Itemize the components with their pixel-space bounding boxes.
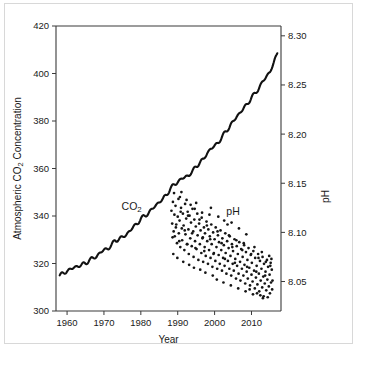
ph-data-point <box>229 284 232 287</box>
ph-data-point <box>179 246 182 249</box>
ph-data-point <box>179 196 182 199</box>
ph-data-point <box>256 283 259 286</box>
ph-data-point <box>246 259 249 262</box>
ph-data-point <box>184 203 187 206</box>
ph-data-point <box>208 235 211 238</box>
ph-data-point <box>264 270 267 273</box>
ph-data-point <box>239 261 242 264</box>
ph-data-point <box>246 265 249 268</box>
ph-data-point <box>222 244 225 247</box>
ph-data-point <box>171 236 174 239</box>
ph-data-point <box>247 247 250 250</box>
ph-data-point <box>268 255 271 258</box>
figure-frame: 300320340360380400420 8.058.108.158.208.… <box>4 3 353 344</box>
ph-data-point <box>209 257 212 260</box>
ph-data-point <box>238 241 241 244</box>
right-tick-label: 8.30 <box>288 30 307 41</box>
ph-data-point <box>194 240 197 243</box>
ph-data-point <box>211 265 214 268</box>
ph-data-point <box>224 232 227 235</box>
x-tick-label: 1980 <box>130 317 151 328</box>
plot-area <box>56 26 281 311</box>
ph-data-point <box>188 263 191 266</box>
ph-data-point <box>203 250 206 253</box>
ph-data-point <box>196 234 199 237</box>
ph-data-point <box>219 229 222 232</box>
ph-data-point <box>250 273 253 276</box>
ph-data-point <box>223 219 226 222</box>
left-tick-label: 420 <box>33 20 49 31</box>
figure-container: 300320340360380400420 8.058.108.158.208.… <box>0 0 389 377</box>
ph-data-point <box>226 240 229 243</box>
ph-data-point <box>253 287 256 290</box>
ph-data-point <box>252 293 255 296</box>
ph-data-point <box>260 251 263 254</box>
ph-data-point <box>235 245 238 248</box>
ph-data-point <box>263 262 266 265</box>
ph-data-point <box>231 243 234 246</box>
ph-data-point <box>230 274 233 277</box>
ph-data-point <box>185 199 188 202</box>
right-tick-label: 8.25 <box>288 79 307 90</box>
ph-data-point <box>226 223 229 226</box>
ph-data-point <box>236 264 239 267</box>
ph-data-point <box>172 253 175 256</box>
ph-data-point <box>193 266 196 269</box>
ph-data-point <box>177 232 180 235</box>
ph-data-point <box>210 206 213 209</box>
ph-data-point <box>176 215 179 218</box>
ph-data-point <box>210 243 213 246</box>
ph-data-point <box>220 242 223 245</box>
ph-data-point <box>234 261 237 264</box>
ph-data-point <box>170 209 173 212</box>
ph-data-point <box>183 249 186 252</box>
ph-data-point <box>259 260 262 263</box>
ph-data-point <box>232 250 235 253</box>
ph-data-point <box>208 213 211 216</box>
ph-data-point <box>228 267 231 270</box>
ph-data-point <box>241 256 244 259</box>
ph-data-point <box>207 228 210 231</box>
ph-data-point <box>213 238 216 241</box>
co2-line-series <box>60 53 278 275</box>
ph-data-point <box>241 249 244 252</box>
ph-data-point <box>187 214 190 217</box>
ph-data-point <box>237 272 240 275</box>
ph-data-point <box>176 242 179 245</box>
ph-data-point <box>214 226 217 229</box>
ph-data-point <box>270 268 273 271</box>
ph-data-point <box>217 234 220 237</box>
ph-data-point <box>251 280 254 283</box>
ph-data-point <box>230 221 233 224</box>
ph-data-point <box>229 255 232 258</box>
ph-data-point <box>259 279 262 282</box>
ph-data-point <box>223 264 226 267</box>
ph-data-point <box>204 232 207 235</box>
ph-data-point <box>260 267 263 270</box>
ph-data-point <box>210 223 213 226</box>
ph-data-point <box>261 256 264 259</box>
ph-data-point <box>231 246 234 249</box>
ph-data-point <box>209 238 212 241</box>
ph-data-point <box>222 281 225 284</box>
right-tick-label: 8.10 <box>288 227 307 238</box>
ph-data-point <box>206 240 209 243</box>
ph-data-point <box>255 276 258 279</box>
ph-data-point <box>271 288 274 291</box>
ph-data-point <box>221 237 224 240</box>
ph-data-point <box>235 277 238 280</box>
series-annotation-co2: CO2 <box>122 200 142 214</box>
ph-data-point <box>196 212 199 215</box>
ph-data-point <box>195 202 198 205</box>
ph-data-point <box>216 230 219 233</box>
ph-data-point <box>193 218 196 221</box>
ph-data-point <box>190 221 193 224</box>
ph-data-point <box>224 258 227 261</box>
ph-data-point <box>183 229 186 232</box>
ph-data-point <box>259 294 262 297</box>
x-tick-label: 1960 <box>56 317 77 328</box>
ph-data-point <box>181 239 184 242</box>
left-tick-label: 380 <box>33 115 49 126</box>
ph-data-point <box>243 263 246 266</box>
ph-data-point <box>187 253 190 256</box>
